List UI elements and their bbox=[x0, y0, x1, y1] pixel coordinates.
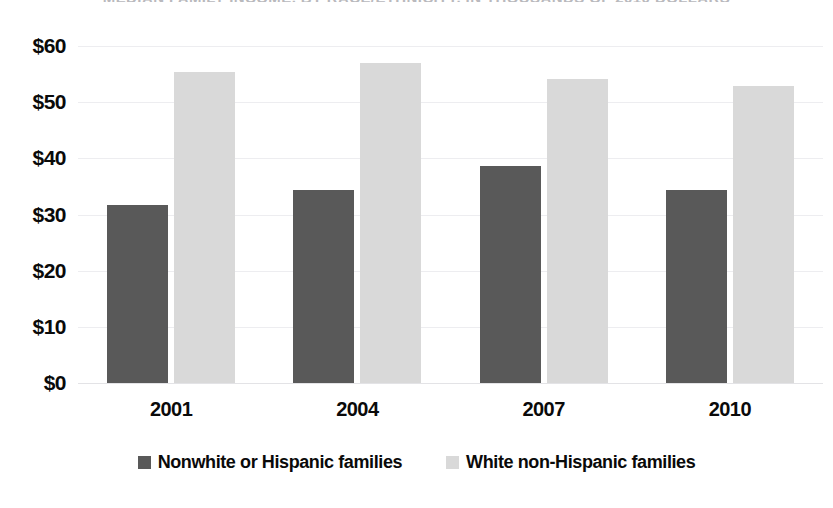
y-tick-label: $30 bbox=[2, 203, 66, 227]
bar-group-2010 bbox=[637, 46, 823, 383]
chart-title: MEDIAN FAMILY INCOME, BY RACE/ETHNICITY,… bbox=[0, 0, 833, 2]
bar-group-2004 bbox=[264, 46, 450, 383]
legend-label: Nonwhite or Hispanic families bbox=[158, 452, 402, 473]
bar-2007-series1 bbox=[480, 166, 541, 383]
y-tick-label: $40 bbox=[2, 146, 66, 170]
legend-swatch-icon bbox=[138, 456, 151, 469]
chart-legend: Nonwhite or Hispanic familiesWhite non-H… bbox=[0, 452, 833, 473]
bar-group-2007 bbox=[451, 46, 637, 383]
y-tick-label: $60 bbox=[2, 34, 66, 58]
bar-2004-series1 bbox=[293, 190, 354, 383]
bar-2010-series1 bbox=[666, 190, 727, 383]
bar-2007-series2 bbox=[547, 79, 608, 383]
x-tick-label-2010: 2010 bbox=[637, 398, 823, 421]
legend-item-2[interactable]: White non-Hispanic families bbox=[446, 452, 695, 473]
y-tick-label: $50 bbox=[2, 90, 66, 114]
plot-area bbox=[78, 46, 823, 383]
gridline-0 bbox=[78, 383, 823, 384]
legend-label: White non-Hispanic families bbox=[466, 452, 695, 473]
y-tick-label: $20 bbox=[2, 259, 66, 283]
bar-group-2001 bbox=[78, 46, 264, 383]
legend-item-1[interactable]: Nonwhite or Hispanic families bbox=[138, 452, 402, 473]
bar-chart: MEDIAN FAMILY INCOME, BY RACE/ETHNICITY,… bbox=[0, 0, 833, 508]
x-tick-label-2004: 2004 bbox=[264, 398, 450, 421]
y-tick-label: $10 bbox=[2, 315, 66, 339]
bar-2010-series2 bbox=[733, 86, 794, 383]
x-tick-label-2001: 2001 bbox=[78, 398, 264, 421]
bar-2004-series2 bbox=[360, 63, 421, 383]
x-tick-label-2007: 2007 bbox=[451, 398, 637, 421]
y-tick-label: $0 bbox=[2, 371, 66, 395]
bar-2001-series1 bbox=[107, 205, 168, 383]
legend-swatch-icon bbox=[446, 456, 459, 469]
bar-2001-series2 bbox=[174, 72, 235, 383]
